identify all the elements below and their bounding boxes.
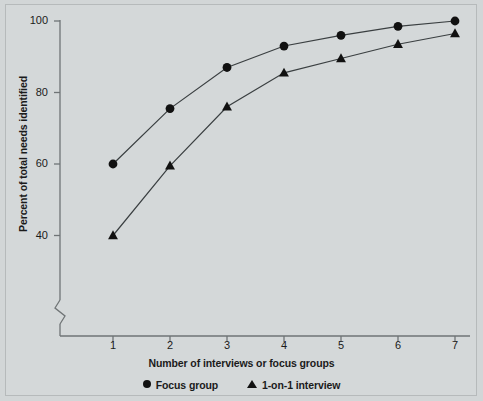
- y-tick-marks: [54, 21, 60, 236]
- x-tick-label-2: 2: [160, 339, 180, 351]
- x-tick-label-1: 1: [103, 339, 123, 351]
- data-series-layer: [108, 17, 460, 240]
- figure-container: 100 80 60 40 1 2 3 4 5 6 7 Percent of to…: [0, 0, 483, 401]
- legend-label-1-on-1-interview: 1-on-1 interview: [262, 379, 340, 391]
- series-focus-group: [109, 17, 460, 169]
- x-tick-label-5: 5: [331, 339, 351, 351]
- data-point-circle: [337, 31, 346, 40]
- legend-label-focus-group: Focus group: [156, 379, 218, 391]
- data-point-circle: [451, 17, 460, 26]
- x-tick-label-6: 6: [388, 339, 408, 351]
- x-tick-label-7: 7: [445, 339, 465, 351]
- triangle-marker-icon: [247, 380, 257, 388]
- data-point-circle: [280, 42, 289, 51]
- y-tick-label-100: 100: [14, 14, 48, 26]
- legend-entry-focus-group: Focus group: [143, 378, 218, 391]
- y-axis-label: Percent of total needs identified: [17, 49, 29, 259]
- data-point-triangle: [450, 28, 460, 37]
- data-point-circle: [394, 22, 403, 31]
- data-point-circle: [166, 104, 175, 113]
- series-one-on-one-interview: [108, 28, 460, 239]
- series-line: [113, 34, 455, 236]
- chart-canvas: [0, 0, 483, 401]
- circle-marker-icon: [143, 380, 151, 388]
- y-axis: [55, 20, 65, 336]
- x-tick-label-3: 3: [217, 339, 237, 351]
- data-point-triangle: [222, 102, 232, 111]
- data-point-circle: [223, 63, 232, 72]
- data-point-circle: [109, 160, 118, 169]
- y-axis-break-zigzag: [55, 300, 65, 324]
- chart-legend: Focus group 1-on-1 interview: [0, 378, 483, 391]
- legend-entry-1-on-1-interview: 1-on-1 interview: [247, 378, 340, 391]
- x-tick-label-4: 4: [274, 339, 294, 351]
- x-axis-label: Number of interviews or focus groups: [0, 357, 483, 369]
